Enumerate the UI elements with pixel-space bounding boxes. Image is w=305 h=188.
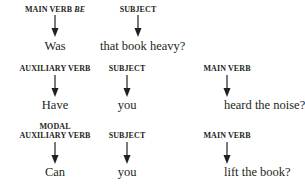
word-that-book-heavy: that book heavy? [100, 39, 185, 53]
label-auxiliary-verb: AUXILIARY VERB [19, 131, 90, 140]
arrow-down-icon [51, 142, 59, 164]
label-main-verb: MAIN VERB [203, 64, 250, 73]
word-you: you [118, 98, 137, 112]
label-text: MAIN VERB [25, 5, 72, 14]
word-you: you [118, 165, 137, 179]
arrow-down-icon [123, 75, 131, 97]
arrow-down-icon [51, 75, 59, 97]
label-main-verb-be: MAIN VERB BE [25, 5, 85, 14]
word-heard-the-noise: heard the noise? [224, 98, 305, 112]
label-subject: SUBJECT [120, 5, 157, 14]
label-subject: SUBJECT [109, 64, 146, 73]
label-subject: SUBJECT [109, 131, 146, 140]
arrow-down-icon [223, 142, 231, 164]
label-modal: MODAL [39, 122, 70, 131]
label-auxiliary-verb: AUXILIARY VERB [19, 64, 90, 73]
word-have: Have [42, 98, 68, 112]
word-was: Was [44, 39, 65, 53]
label-main-verb: MAIN VERB [203, 131, 250, 140]
arrow-down-icon [51, 15, 59, 37]
arrow-down-icon [123, 142, 131, 164]
word-lift-the-book: lift the book? [224, 165, 291, 179]
word-can: Can [45, 165, 65, 179]
arrow-down-icon [134, 15, 142, 37]
label-italic-text: BE [74, 5, 85, 14]
arrow-down-icon [223, 75, 231, 97]
